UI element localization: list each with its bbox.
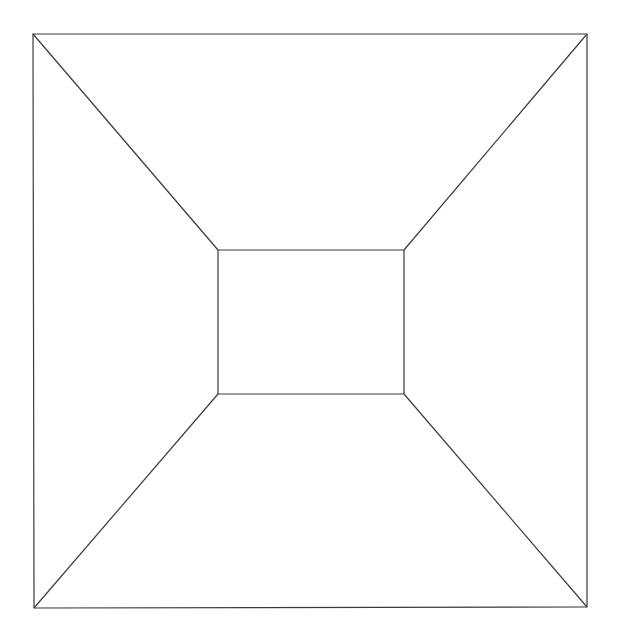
diagonal-top-left [33,34,218,250]
perspective-box-diagram [0,0,620,643]
diagonal-bottom-left [34,394,218,608]
diagonal-top-right [404,34,587,250]
inner-rectangle [218,250,404,394]
outer-rectangle [33,34,587,608]
diagonal-bottom-right [404,394,587,607]
